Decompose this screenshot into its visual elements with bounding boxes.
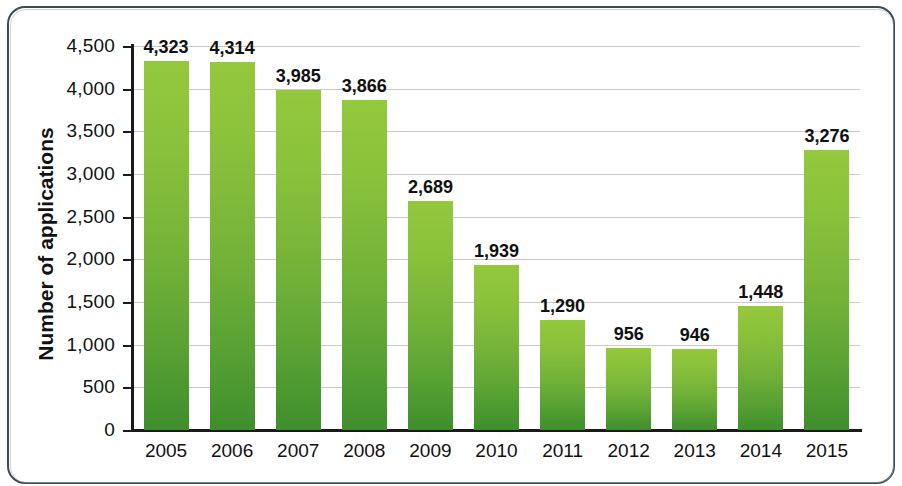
x-axis-tick-label: 2015	[794, 440, 860, 462]
bar-value-label: 3,866	[331, 76, 397, 97]
bar-value-label: 1,290	[530, 296, 596, 317]
bar-value-label: 4,314	[199, 38, 265, 59]
y-axis-tick-label: 0	[49, 419, 115, 441]
chart-page: Number of applications 05001,0001,5002,0…	[0, 0, 902, 486]
x-axis-tick-label: 2010	[463, 440, 529, 462]
y-axis-tick-label: 2,500	[49, 206, 115, 228]
y-axis-tick-label: 4,500	[49, 35, 115, 57]
bar[interactable]	[144, 61, 189, 430]
bar[interactable]	[210, 62, 255, 430]
bar[interactable]	[738, 306, 783, 430]
bar-value-label: 4,323	[133, 37, 199, 58]
y-axis-tick-label: 1,500	[49, 291, 115, 313]
bar-value-label: 2,689	[397, 177, 463, 198]
bar-value-label: 3,276	[794, 126, 860, 147]
y-axis-tick-label: 3,500	[49, 120, 115, 142]
x-axis-tick-label: 2005	[133, 440, 199, 462]
x-axis-tick-label: 2012	[596, 440, 662, 462]
bar[interactable]	[408, 201, 453, 430]
y-axis-tick-label: 2,000	[49, 248, 115, 270]
y-axis-tick-label: 500	[49, 376, 115, 398]
x-axis-tick-label: 2013	[662, 440, 728, 462]
bar[interactable]	[474, 265, 519, 430]
x-axis-tick-label: 2006	[199, 440, 265, 462]
y-axis-tick-label: 3,000	[49, 163, 115, 185]
x-axis-tick-label: 2014	[728, 440, 794, 462]
bar[interactable]	[804, 150, 849, 430]
bar-value-label: 956	[596, 324, 662, 345]
x-axis-tick-label: 2007	[265, 440, 331, 462]
bar[interactable]	[606, 348, 651, 430]
bar-value-label: 1,939	[463, 241, 529, 262]
x-axis-tick-label: 2008	[331, 440, 397, 462]
bar-value-label: 3,985	[265, 66, 331, 87]
bar-chart: Number of applications 05001,0001,5002,0…	[0, 0, 902, 486]
bar[interactable]	[540, 320, 585, 430]
bar[interactable]	[672, 349, 717, 430]
bar-value-label: 1,448	[728, 282, 794, 303]
x-axis-tick-label: 2011	[530, 440, 596, 462]
x-axis-tick-label: 2009	[397, 440, 463, 462]
plot-area: 4,3234,3143,9853,8662,6891,9391,29095694…	[133, 46, 860, 430]
bar[interactable]	[342, 100, 387, 430]
bar[interactable]	[276, 90, 321, 430]
y-axis-tick-label: 4,000	[49, 78, 115, 100]
y-axis-tick-label: 1,000	[49, 334, 115, 356]
bar-value-label: 946	[662, 325, 728, 346]
